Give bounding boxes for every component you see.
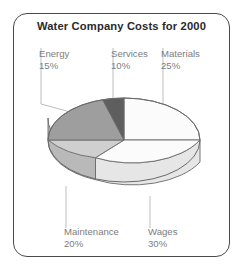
label-wages-name: Wages (148, 226, 178, 237)
pie-slice-materials (124, 98, 200, 140)
label-materials-name: Materials (161, 48, 200, 59)
label-maintenance-value: 20% (64, 238, 119, 250)
label-materials: Materials 25% (161, 48, 200, 72)
label-wages: Wages 30% (148, 226, 178, 250)
label-maintenance-name: Maintenance (64, 226, 119, 237)
label-services: Services 10% (111, 48, 148, 72)
pie-chart-graphic (0, 0, 243, 270)
label-energy: Energy 15% (39, 48, 69, 72)
label-energy-value: 15% (39, 60, 69, 72)
label-wages-value: 30% (148, 238, 178, 250)
label-services-name: Services (111, 48, 148, 59)
label-maintenance: Maintenance 20% (64, 226, 119, 250)
label-energy-name: Energy (39, 48, 69, 59)
label-services-value: 10% (111, 60, 148, 72)
label-materials-value: 25% (161, 60, 200, 72)
pie-3d-body (48, 98, 200, 204)
